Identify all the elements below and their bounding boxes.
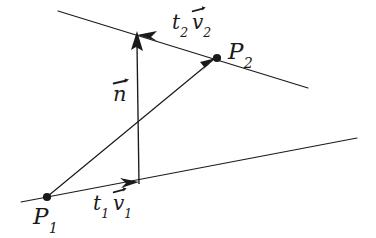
label-point-p2: P2 [228,40,253,67]
label-t2-subscript: 2 [180,25,188,40]
label-v2-vecwrap: v [192,12,203,32]
label-t1-subscript: 1 [101,206,109,221]
label-p2-base: P [228,38,243,64]
label-v2-base: v [192,10,203,34]
geometry-figure: P1 P2 n t1v1 t2v2 [0,0,376,238]
label-v2-subscript: 2 [203,25,211,40]
vector-p1-to-p2-arrowhead [199,58,216,73]
label-t1-base: t [93,191,101,215]
label-vector-t1v1: t1v1 [93,193,132,217]
label-v1-subscript: 1 [124,206,132,221]
label-p1-base: P [33,203,48,229]
vector-n-shaft [137,44,139,184]
line-1-lower [21,138,357,202]
label-vector-n: n [113,84,127,105]
label-v1-vecwrap: v [113,193,124,213]
label-t2-base: t [172,10,180,34]
label-point-p1: P1 [33,205,58,232]
label-n-vecwrap: n [113,84,127,105]
label-p1-subscript: 1 [49,220,58,236]
label-vector-t2v2: t2v2 [172,12,211,36]
point-p2-dot [213,54,221,62]
vector-p1-to-p2-shaft [48,64,208,196]
label-n-base: n [113,82,127,106]
point-p1-dot [43,193,51,201]
label-v1-base: v [113,191,124,215]
label-p2-subscript: 2 [244,55,253,71]
